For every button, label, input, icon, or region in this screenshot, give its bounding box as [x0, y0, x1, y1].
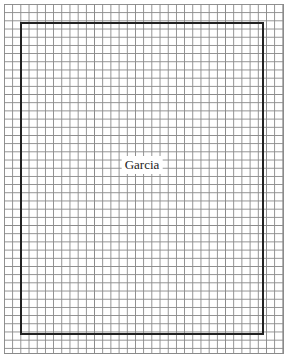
- plot-label: Garcia: [122, 156, 163, 174]
- plot-boundary: Garcia: [20, 22, 264, 335]
